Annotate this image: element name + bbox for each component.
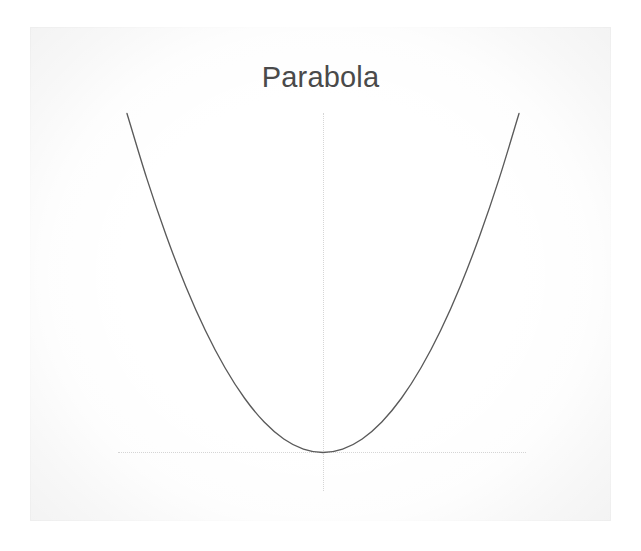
y-axis-dotted-line [323,113,324,491]
page-title: Parabola [0,60,641,94]
scan-vignette [30,27,611,521]
plot-area [30,27,611,521]
figure-canvas: Parabola [0,0,641,551]
x-axis-dotted-line [118,452,526,453]
